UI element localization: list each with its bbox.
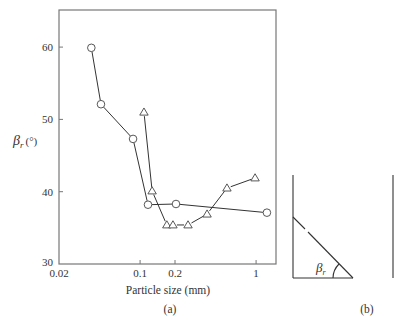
- circles-segment: [152, 204, 172, 205]
- y-tick-label: 30: [42, 256, 54, 268]
- y-tick-label: 60: [42, 41, 54, 53]
- triangles-segment: [191, 216, 203, 223]
- circle-marker: [263, 209, 271, 217]
- triangle-marker: [251, 174, 259, 181]
- y-tick-label: 40: [42, 186, 54, 198]
- x-tick-label: 0.02: [49, 267, 68, 279]
- data-series: [88, 44, 271, 228]
- circles-segment: [180, 204, 263, 212]
- panel-label-b: (b): [360, 303, 374, 316]
- figure: 0.020.10.2130405060 βr(°) Particle size …: [0, 0, 405, 327]
- triangles-segment: [231, 179, 252, 186]
- x-tick-label: 0.2: [168, 267, 182, 279]
- circle-marker: [172, 200, 180, 208]
- triangle-marker: [169, 221, 177, 228]
- angle-label-subscript: r: [322, 268, 326, 277]
- circles-segment: [92, 52, 100, 101]
- y-axis-label-subscript: r: [20, 140, 24, 150]
- angle-label: βr: [315, 260, 326, 277]
- circle-marker: [97, 100, 105, 108]
- y-tick-label: 50: [42, 113, 54, 125]
- circle-marker: [88, 44, 96, 52]
- y-axis-label: βr(°): [12, 133, 38, 150]
- x-axis-label: Particle size (mm): [126, 284, 210, 297]
- axis-ticks: 0.020.10.2130405060: [42, 41, 259, 279]
- circles-segment: [104, 107, 131, 136]
- triangle-marker: [223, 184, 231, 191]
- triangle-marker: [148, 187, 156, 194]
- slope-line-lower: [308, 232, 353, 278]
- circle-marker: [144, 201, 152, 209]
- triangles-segment: [154, 195, 166, 222]
- triangles-segment: [144, 116, 151, 187]
- y-axis-label-unit: (°): [26, 135, 38, 148]
- y-axis-label-symbol: β: [12, 133, 20, 148]
- triangle-marker: [140, 108, 148, 115]
- panel-label-a: (a): [164, 303, 177, 316]
- slope-line-upper: [293, 217, 305, 229]
- circle-marker: [129, 135, 137, 143]
- x-tick-label: 1: [253, 267, 259, 279]
- circles-segment: [134, 143, 147, 201]
- triangle-marker: [184, 221, 192, 228]
- angle-of-repose-diagram: βr: [293, 175, 393, 278]
- x-tick-label: 0.1: [133, 267, 147, 279]
- angle-arc: [333, 264, 339, 278]
